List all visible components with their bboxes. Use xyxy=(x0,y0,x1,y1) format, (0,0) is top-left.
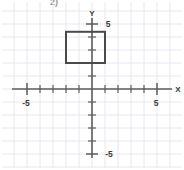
y-axis-label: Y xyxy=(89,9,95,18)
y-tick-label-pos5: 5 xyxy=(106,19,111,29)
plotted-shapes xyxy=(66,32,105,63)
x-tick-label-pos5: 5 xyxy=(154,98,159,108)
axes xyxy=(12,18,172,158)
x-tick-label-neg5: -5 xyxy=(22,98,30,108)
rectangle-shape xyxy=(66,32,105,63)
y-tick-label-neg5: -5 xyxy=(105,149,113,159)
x-axis-label: X xyxy=(175,85,181,94)
coordinate-plane-svg: -555-5YX xyxy=(0,0,184,170)
coordinate-plane-figure: 2) -555-5YX xyxy=(0,0,184,170)
